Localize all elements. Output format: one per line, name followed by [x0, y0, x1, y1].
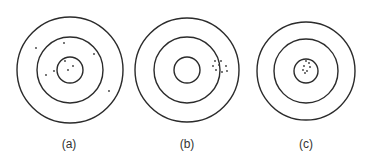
outer-ring — [257, 22, 355, 120]
middle-ring — [37, 37, 103, 103]
outer-ring — [135, 18, 239, 122]
bullseye-ring — [174, 57, 200, 83]
shot-dot — [212, 65, 214, 67]
shot-dot — [303, 65, 305, 67]
shot-dot — [302, 69, 304, 71]
target-b — [135, 18, 239, 122]
shot-dot — [108, 90, 110, 92]
shot-dot — [221, 71, 223, 73]
shot-dot — [304, 72, 306, 74]
shot-dot — [308, 62, 310, 64]
middle-ring — [154, 37, 220, 103]
shot-dot — [214, 60, 216, 62]
shot-dot — [309, 66, 311, 68]
middle-ring — [274, 39, 338, 103]
bullseye-ring — [294, 59, 318, 83]
shot-dot — [35, 47, 37, 49]
shot-dot — [53, 70, 55, 72]
target-a — [17, 17, 123, 123]
shot-dot — [306, 70, 308, 72]
shot-dot — [72, 65, 74, 67]
shot-dot — [215, 69, 217, 71]
shot-dot — [218, 64, 220, 66]
target-c-label: (c) — [286, 137, 326, 151]
shot-dot — [93, 53, 95, 55]
shot-dot — [45, 74, 47, 76]
target-a-label: (a) — [49, 137, 89, 151]
shot-dot — [225, 65, 227, 67]
shot-dot — [220, 60, 222, 62]
bullseye-ring — [57, 57, 83, 83]
target-c — [257, 22, 355, 120]
shot-dot — [63, 42, 65, 44]
target-b-label: (b) — [167, 137, 207, 151]
outer-ring — [17, 17, 123, 123]
shot-dot — [226, 70, 228, 72]
shot-dot — [64, 60, 66, 62]
shot-dot — [305, 60, 307, 62]
shot-dot — [67, 69, 69, 71]
